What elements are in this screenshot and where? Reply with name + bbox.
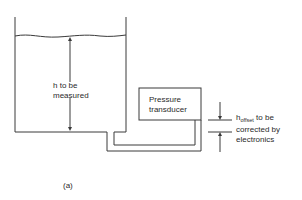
offset-label-line2: corrected by — [236, 125, 280, 135]
offset-line1-rest: to be — [254, 113, 274, 122]
offset-label: hoffset to be corrected by electronics — [236, 113, 280, 145]
tank-outline — [15, 17, 201, 151]
tank-label-line1: h to be — [53, 81, 89, 91]
transducer-label-line1: Pressure — [149, 95, 187, 105]
offset-subscript: offset — [240, 117, 253, 123]
tank-label-line2: measured — [53, 91, 89, 101]
water-surface — [15, 35, 126, 37]
transducer-label: Pressure transducer — [149, 95, 187, 115]
figure-caption: (a) — [63, 181, 73, 191]
offset-label-line1: hoffset to be — [236, 113, 280, 125]
offset-label-line3: electronics — [236, 135, 280, 145]
tank-right-wall — [114, 17, 195, 145]
transducer-label-line2: transducer — [149, 105, 187, 115]
tank-label: h to be measured — [53, 81, 89, 101]
